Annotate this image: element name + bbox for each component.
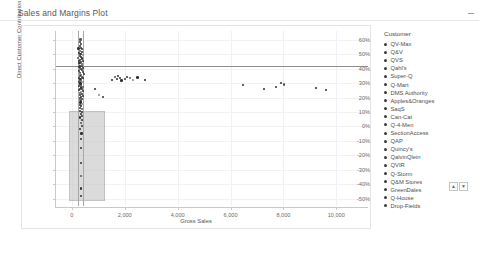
gridline-vertical — [336, 31, 337, 206]
highlight-selection-region[interactable] — [69, 111, 105, 201]
collapse-dash-icon[interactable] — [468, 13, 474, 14]
x-axis-tick-mark — [178, 208, 179, 210]
legend-item[interactable]: Q-Mart — [383, 80, 475, 88]
scatter-point[interactable] — [80, 162, 82, 164]
legend-item-label: QAP — [391, 137, 403, 145]
gridline-horizontal — [56, 69, 368, 70]
legend-item-label: Q-4-Men — [391, 121, 414, 129]
y-axis-tick-label: -30% — [336, 167, 370, 173]
scatter-point[interactable] — [94, 88, 96, 90]
scatter-point[interactable] — [80, 195, 82, 197]
legend-item-label: Q-Storm — [391, 170, 413, 178]
scatter-point[interactable] — [124, 78, 126, 80]
scatter-point[interactable] — [136, 76, 139, 79]
scatter-point[interactable] — [80, 43, 82, 45]
scatter-point[interactable] — [81, 115, 83, 117]
legend-marker-icon — [384, 99, 387, 102]
scatter-point[interactable] — [111, 79, 114, 82]
legend-item[interactable]: SaqS — [383, 105, 475, 113]
scatter-point[interactable] — [82, 54, 84, 56]
legend-item[interactable]: QV-Max — [383, 40, 475, 48]
y-axis-tick-label: 50% — [336, 51, 370, 57]
legend-marker-icon — [384, 196, 387, 199]
scatter-point[interactable] — [98, 94, 100, 96]
legend-item-label: Q-Mart — [391, 81, 409, 89]
legend-item[interactable]: Drop-Fields — [383, 202, 475, 210]
scatter-point[interactable] — [283, 83, 286, 86]
scatter-point[interactable] — [275, 86, 277, 88]
x-axis-tick-mark — [72, 208, 73, 210]
legend-scroll-down-button[interactable]: ▼ — [459, 182, 468, 191]
scatter-point[interactable] — [325, 89, 327, 91]
x-axis-tick-mark — [231, 208, 232, 210]
scatter-point[interactable] — [132, 79, 134, 81]
legend-marker-icon — [384, 164, 387, 167]
scatter-point[interactable] — [80, 122, 82, 124]
legend-item[interactable]: QAP — [383, 137, 475, 145]
legend-item[interactable]: QVS — [383, 56, 475, 64]
sales-margins-plot-panel: Sales and Margins Plot Direct Customer C… — [0, 0, 479, 268]
legend-marker-icon — [384, 180, 387, 183]
scatter-point[interactable] — [144, 79, 146, 81]
plot-area[interactable] — [56, 31, 368, 206]
y-axis-tick-mark — [53, 126, 55, 127]
legend-marker-icon — [384, 148, 387, 151]
y-axis-tick-mark — [53, 40, 55, 41]
y-axis-tick-label: -50% — [336, 196, 370, 202]
legend-item[interactable]: QalvinQlein — [383, 153, 475, 161]
scatter-point[interactable] — [315, 87, 317, 89]
scatter-point[interactable] — [263, 88, 265, 90]
legend-scroll-controls[interactable]: ▲ ▼ — [449, 182, 468, 191]
scatter-point[interactable] — [102, 96, 104, 98]
y-axis-tick-mark — [53, 112, 55, 113]
legend-item[interactable]: Qahl's — [383, 64, 475, 72]
scatter-point[interactable] — [120, 79, 123, 82]
legend-item[interactable]: Q&V — [383, 48, 475, 56]
legend-marker-icon — [384, 188, 387, 191]
y-axis-tick-mark — [53, 54, 55, 55]
legend-item[interactable]: QVIR — [383, 161, 475, 169]
scatter-point[interactable] — [129, 77, 131, 79]
y-axis-tick-label: 30% — [336, 80, 370, 86]
gridline-horizontal — [56, 54, 368, 55]
y-axis-tick-mark — [53, 69, 55, 70]
legend-item[interactable]: Quincy's — [383, 145, 475, 153]
scatter-point[interactable] — [280, 82, 282, 84]
y-axis-tick-label: -40% — [336, 181, 370, 187]
legend-marker-icon — [384, 83, 387, 86]
legend-item[interactable]: Super-Q — [383, 72, 475, 80]
legend-marker-icon — [384, 43, 387, 46]
legend-item-label: Can-Cat — [391, 113, 413, 121]
legend-item-label: Q&M Stores — [391, 178, 423, 186]
legend-title: Customer — [383, 30, 475, 37]
gridline-vertical — [125, 31, 126, 206]
legend-item[interactable]: DMS Authority — [383, 89, 475, 97]
scatter-point[interactable] — [242, 84, 244, 86]
legend-item[interactable]: SectionAccess — [383, 129, 475, 137]
legend-marker-icon — [384, 172, 387, 175]
y-axis-tick-label: -10% — [336, 138, 370, 144]
legend-marker-icon — [384, 123, 387, 126]
legend-item[interactable]: Can-Cat — [383, 113, 475, 121]
scatter-point[interactable] — [80, 175, 82, 177]
gridline-vertical — [231, 31, 232, 206]
legend-item-label: QVIR — [391, 161, 405, 169]
legend-marker-icon — [384, 75, 387, 78]
y-axis-tick-mark — [53, 98, 55, 99]
scatter-point[interactable] — [81, 119, 83, 121]
x-axis-tick-label: 6,000 — [211, 212, 251, 218]
legend-item[interactable]: Apples&Oranges — [383, 97, 475, 105]
y-axis-tick-mark — [53, 155, 55, 156]
y-axis-tick-label: 0% — [336, 123, 370, 129]
legend-item-label: Super-Q — [391, 72, 413, 80]
legend-item-label: Drop-Fields — [391, 202, 421, 210]
y-axis-label: Direct Customer Contribution Margin % — [16, 0, 22, 78]
legend-item[interactable]: Q-4-Men — [383, 121, 475, 129]
x-axis-tick-mark — [125, 208, 126, 210]
legend-item[interactable]: Q-Storm — [383, 170, 475, 178]
legend-item[interactable]: Q-House — [383, 194, 475, 202]
legend-scroll-up-button[interactable]: ▲ — [449, 182, 458, 191]
scatter-point[interactable] — [83, 73, 85, 75]
scatter-point[interactable] — [116, 78, 118, 80]
legend-marker-icon — [384, 156, 387, 159]
